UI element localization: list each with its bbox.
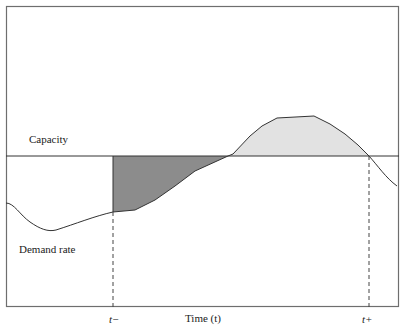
x-axis-label: Time (t)	[185, 312, 221, 324]
t-minus-label: t−	[109, 313, 119, 325]
deficit-region	[113, 156, 228, 212]
t-plus-label: t+	[362, 313, 372, 325]
capacity-label: Capacity	[29, 133, 68, 145]
demand-rate-label: Demand rate	[19, 243, 76, 255]
diagram-canvas	[0, 0, 406, 330]
